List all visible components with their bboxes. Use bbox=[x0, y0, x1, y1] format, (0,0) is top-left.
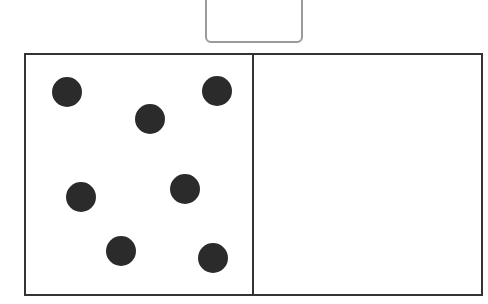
dot-5 bbox=[170, 174, 200, 204]
dot-7 bbox=[198, 243, 228, 273]
dot-1 bbox=[52, 77, 82, 107]
dot-2 bbox=[135, 104, 165, 134]
right-panel-empty bbox=[254, 55, 481, 294]
dot-3 bbox=[202, 76, 232, 106]
two-panel-frame bbox=[24, 53, 483, 296]
top-box bbox=[205, 0, 303, 43]
dot-6 bbox=[106, 236, 136, 266]
dot-4 bbox=[66, 182, 96, 212]
